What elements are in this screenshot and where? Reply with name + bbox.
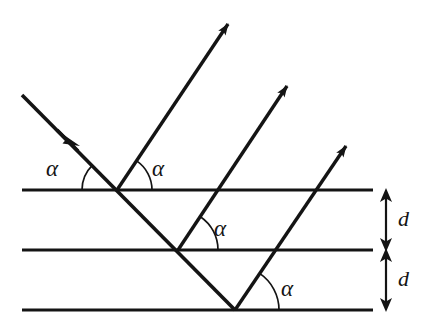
angle-label-incident-top: α — [46, 157, 58, 180]
bragg-diffraction-diagram: α α α α d d — [0, 0, 427, 325]
incident-ray — [22, 95, 235, 310]
spacing-label-lower: d — [398, 268, 409, 290]
incident-ray-line — [22, 95, 235, 310]
spacing-dimension-group — [380, 188, 392, 312]
diffracted-ray-2 — [178, 86, 287, 250]
angle-arc-reflected-top — [137, 161, 152, 190]
angle-label-reflected-middle: α — [214, 217, 226, 240]
lattice-plane-group — [22, 190, 373, 310]
diagram-canvas — [0, 0, 427, 325]
angle-arc-incident-top — [82, 165, 93, 190]
angle-label-reflected-top: α — [152, 157, 164, 180]
angle-arc-reflected-bottom — [260, 273, 279, 310]
incident-ray-arrow-stem — [57, 130, 78, 151]
spacing-label-upper: d — [398, 208, 409, 230]
diffracted-ray-1 — [117, 24, 228, 190]
angle-label-reflected-bottom: α — [281, 277, 293, 300]
